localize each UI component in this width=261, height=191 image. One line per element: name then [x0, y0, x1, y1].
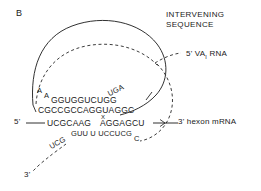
va-rna-label-tail: RNA: [207, 49, 227, 58]
mrna-strand-left: UCGCAAG: [47, 119, 91, 128]
top-loop-base-1: A: [37, 87, 42, 95]
bottom-strand-sequence: GUU U UCCUCG: [71, 130, 132, 138]
second-strand-sequence: CGCCGCCAGGUAGGC: [38, 106, 134, 115]
loop-right-connector: [146, 92, 152, 100]
bottom-strand-last-base: C: [134, 135, 140, 143]
five-prime-label: 5': [14, 118, 20, 126]
hexon-mrna-label: 3' hexon mRNA: [178, 118, 236, 126]
three-prime-label: 3': [24, 171, 30, 179]
va-rna-dashed-right-loop: [140, 64, 172, 141]
panel-label: B: [16, 9, 22, 18]
intervening-sequence-label-line2: SEQUENCE: [166, 20, 214, 30]
va-rna-label-text: 5' VA: [186, 49, 205, 58]
loop-left-connector: [33, 105, 36, 112]
intervening-sequence-label-line1: INTERVENING: [166, 10, 224, 20]
va-rna-dashed-upper-tail: [155, 53, 181, 63]
va-rna-label: 5' VAI RNA: [186, 50, 227, 60]
diagram-canvas: [0, 0, 261, 191]
top-strand-sequence: GGUGGUCUGG: [51, 96, 117, 105]
mrna-strand-right: AGGAGCU: [100, 119, 145, 128]
figure-panel-b: B INTERVENING SEQUENCE 5' VAI RNA 3' hex…: [0, 0, 261, 191]
top-loop-base-2: A: [44, 92, 49, 100]
va-rna-dashed-three-prime-tail: [32, 144, 66, 172]
